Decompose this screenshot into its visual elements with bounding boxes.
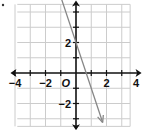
x-tick-label: −4 — [9, 77, 22, 89]
coordinate-plane: −4−2242−2O — [0, 0, 144, 130]
bullet-dot — [2, 4, 4, 6]
origin-label: O — [61, 77, 70, 89]
y-tick-label: 2 — [65, 37, 71, 49]
x-tick-label: 2 — [103, 77, 109, 89]
x-tick-label: −2 — [39, 77, 52, 89]
grid — [15, 4, 130, 126]
x-tick-label: 4 — [133, 77, 140, 89]
y-tick-label: −2 — [58, 98, 71, 110]
